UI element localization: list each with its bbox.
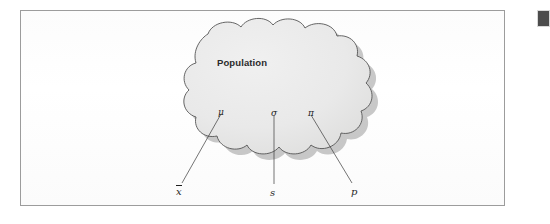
statistic-symbol-p: p [351,186,357,197]
parameter-symbol-pi: π [308,108,314,118]
figure-frame [20,10,505,206]
parameter-symbol-sigma: σ [271,108,277,118]
parameter-symbol-mu: μ [218,107,224,117]
figure-root: Population μ σ π x s p [0,0,550,224]
figure-background [21,11,504,205]
x-bar-glyph: x [176,186,182,197]
page-corner-marker [537,10,550,27]
cloud-label: Population [217,57,267,68]
statistic-symbol-s: s [270,187,275,198]
statistic-symbol-x-bar: x [176,186,182,197]
